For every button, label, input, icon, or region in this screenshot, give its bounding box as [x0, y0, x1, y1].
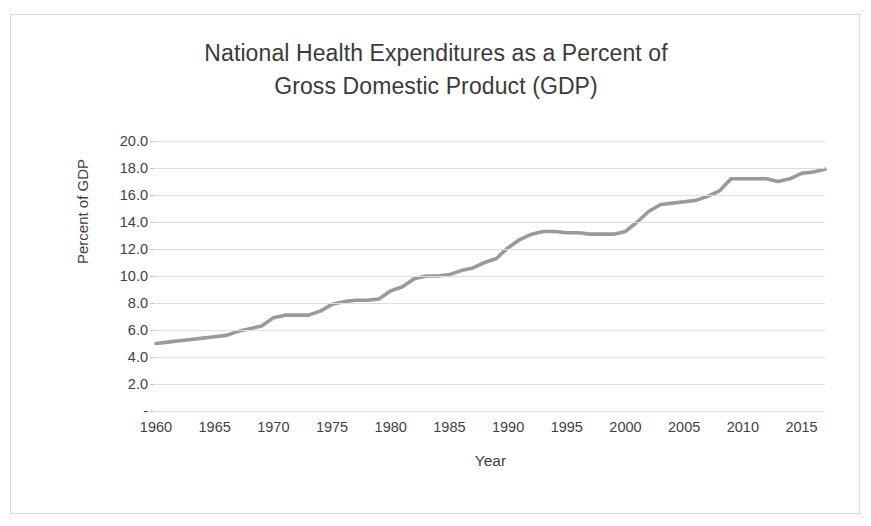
- y-axis-tick-label: 6.0: [100, 323, 148, 338]
- y-axis-tick-label: 16.0: [100, 188, 148, 203]
- y-axis-tick-label: 8.0: [100, 296, 148, 311]
- x-axis-tick-label: 2015: [772, 419, 832, 435]
- chart-title-line2: Gross Domestic Product (GDP): [11, 70, 861, 103]
- y-axis-tick-mark: [150, 303, 155, 304]
- x-axis-title: Year: [156, 452, 825, 470]
- x-axis-tick-label: 2000: [595, 419, 655, 435]
- y-axis-tick-mark: [150, 330, 155, 331]
- gridline: [156, 222, 825, 223]
- x-axis-tick-label: 1985: [419, 419, 479, 435]
- x-axis-tick-label: 1990: [478, 419, 538, 435]
- x-axis-tick-label: 1980: [361, 419, 421, 435]
- y-axis-tick-mark: [150, 276, 155, 277]
- x-axis-tick-label: 1965: [185, 419, 245, 435]
- x-axis-tick-label: 1995: [537, 419, 597, 435]
- gridline: [156, 168, 825, 169]
- y-axis-tick-label: 18.0: [100, 161, 148, 176]
- y-axis-tick-label: 14.0: [100, 215, 148, 230]
- chart-title-line1: National Health Expenditures as a Percen…: [204, 40, 667, 66]
- x-axis-tick-label: 2005: [654, 419, 714, 435]
- y-axis-tick-mark: [150, 141, 155, 142]
- x-axis-tick-label: 2010: [713, 419, 773, 435]
- gridline: [156, 357, 825, 358]
- y-axis-tick-mark: [150, 195, 155, 196]
- x-axis-tick-label: 1975: [302, 419, 362, 435]
- plot-area: [156, 141, 825, 411]
- x-axis-tick-label: 1970: [243, 419, 303, 435]
- y-axis-title: Percent of GDP: [74, 127, 91, 297]
- y-axis-tick-mark: [150, 222, 155, 223]
- gridline: [156, 141, 825, 142]
- gridline: [156, 195, 825, 196]
- y-axis-tick-mark: [150, 249, 155, 250]
- y-axis-tick-mark: [150, 411, 155, 412]
- y-axis-tick-mark: [150, 357, 155, 358]
- gridline: [156, 276, 825, 277]
- chart-frame: National Health Expenditures as a Percen…: [10, 14, 860, 514]
- y-axis-tick-mark: [150, 168, 155, 169]
- y-axis-tick-label: 20.0: [100, 134, 148, 149]
- gridline: [156, 330, 825, 331]
- y-axis-tick-label: 2.0: [100, 377, 148, 392]
- gridline: [156, 249, 825, 250]
- chart-title: National Health Expenditures as a Percen…: [11, 37, 861, 103]
- x-axis-tick-labels: 1960196519701975198019851990199520002005…: [156, 419, 825, 441]
- y-axis-tick-label: -: [100, 404, 148, 419]
- x-axis-tick-label: 1960: [126, 419, 186, 435]
- y-axis-tick-label: 10.0: [100, 269, 148, 284]
- gridline: [156, 411, 825, 412]
- gridline: [156, 384, 825, 385]
- y-axis-tick-labels: 20.018.016.014.012.010.08.06.04.02.0-: [96, 141, 148, 411]
- gridline: [156, 303, 825, 304]
- y-axis-tick-label: 4.0: [100, 350, 148, 365]
- y-axis-tick-mark: [150, 384, 155, 385]
- y-axis-tick-label: 12.0: [100, 242, 148, 257]
